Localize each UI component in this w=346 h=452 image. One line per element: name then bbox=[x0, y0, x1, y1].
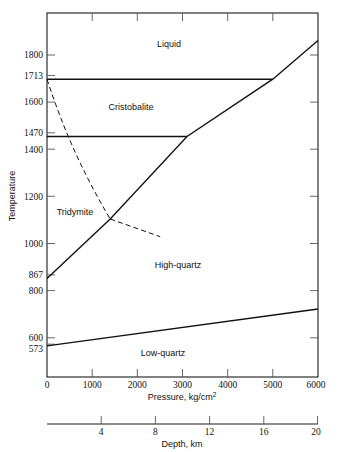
y-axis-title-text: Temperature bbox=[7, 171, 17, 222]
y-tick-label: 1200 bbox=[24, 192, 43, 202]
depth-tick-label: 16 bbox=[259, 427, 269, 437]
depth-tick-label: 8 bbox=[153, 427, 158, 437]
depth-axis-title: Depth, km bbox=[161, 439, 202, 449]
y-tick-label: 1800 bbox=[24, 50, 43, 60]
depth-tick-label: 12 bbox=[205, 427, 215, 437]
x-tick-label: 6000 bbox=[307, 380, 326, 390]
y-tick-label: 1400 bbox=[24, 145, 43, 155]
x-tick-label: 0 bbox=[45, 380, 50, 390]
y-tick-label: 1000 bbox=[24, 239, 43, 249]
region-label-low-quartz: Low-quartz bbox=[141, 348, 186, 358]
diagram-canvas: Temperature 1800 1713 1600 1470 1400 120… bbox=[0, 0, 346, 452]
y-tick-label: 800 bbox=[29, 286, 44, 296]
y-tick-label: 573 bbox=[29, 344, 44, 354]
y-axis-tick-labels: 1800 1713 1600 1470 1400 1200 1000 867 8… bbox=[24, 50, 43, 353]
y-tick-label: 600 bbox=[29, 333, 44, 343]
pressure-axis-title-text: Pressure, kg/cm bbox=[148, 392, 213, 402]
region-label-cristobalite: Cristobalite bbox=[108, 102, 153, 112]
x-tick-label: 3000 bbox=[173, 380, 192, 390]
x-tick-label: 5000 bbox=[263, 380, 282, 390]
y-tick-label: 1713 bbox=[24, 71, 43, 81]
x-axis-ticks bbox=[92, 369, 273, 377]
pressure-axis-title: Pressure, kg/cm2 bbox=[148, 391, 217, 403]
region-label-liquid: Liquid bbox=[157, 39, 181, 49]
x-axis-tick-labels: 0 1000 2000 3000 4000 5000 6000 bbox=[45, 380, 326, 390]
x-tick-label: 2000 bbox=[128, 380, 147, 390]
depth-tick-label: 20 bbox=[311, 427, 321, 437]
y-tick-label: 1600 bbox=[24, 97, 43, 107]
tridymite-metastable-boundary bbox=[47, 79, 110, 219]
high-quartz-boundary bbox=[47, 41, 318, 279]
y-tick-label: 867 bbox=[29, 270, 44, 280]
tridymite-quartz-metastable-extension bbox=[110, 219, 160, 237]
x-tick-label: 4000 bbox=[218, 380, 237, 390]
low-high-quartz-inversion bbox=[47, 309, 318, 346]
region-label-high-quartz: High-quartz bbox=[155, 260, 202, 270]
top-axis-ticks bbox=[92, 13, 273, 21]
y-axis-title: Temperature bbox=[7, 171, 17, 222]
depth-tick-label: 4 bbox=[99, 427, 104, 437]
phase-diagram-figure: Temperature 1800 1713 1600 1470 1400 120… bbox=[0, 0, 346, 452]
x-tick-label: 1000 bbox=[83, 380, 102, 390]
depth-axis: 4 8 12 16 20 Depth, km bbox=[47, 416, 321, 449]
plot-frame bbox=[47, 13, 318, 377]
right-axis-ticks bbox=[310, 55, 318, 338]
y-tick-label: 1470 bbox=[24, 128, 43, 138]
region-label-tridymite: Tridymite bbox=[57, 207, 94, 217]
pressure-axis-title-superscript: 2 bbox=[213, 391, 217, 398]
